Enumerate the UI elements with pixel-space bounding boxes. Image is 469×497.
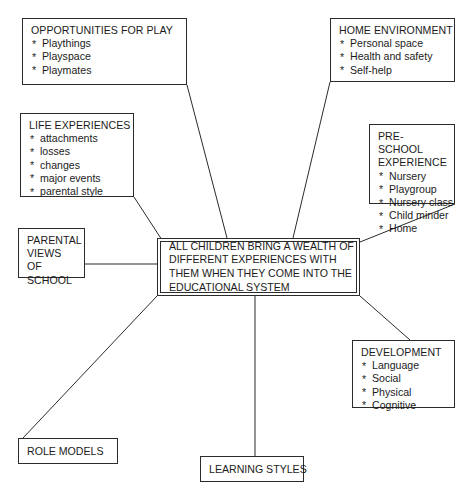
node-parental-views-of-school[interactable]: PARENTAL VIEWS OF SCHOOL: [18, 228, 85, 278]
node-opportunities-for-play[interactable]: OPPORTUNITIES FOR PLAY Playthings Playsp…: [22, 18, 187, 85]
list-item: Social: [361, 372, 447, 385]
node-title: OPPORTUNITIES FOR PLAY: [31, 24, 179, 37]
node-title: ROLE MODELS: [27, 445, 110, 458]
node-title: LEARNING STYLES: [209, 463, 296, 476]
connector-home-environment: [293, 82, 330, 238]
node-home-environment[interactable]: HOME ENVIRONMENT Personal space Health a…: [330, 18, 455, 82]
node-item-list: Language Social Physical Cognitive: [361, 359, 447, 412]
node-role-models[interactable]: ROLE MODELS: [18, 438, 118, 464]
connector-life-experiences: [134, 197, 162, 240]
node-item-list: attachments losses changes major events …: [29, 132, 126, 198]
node-development[interactable]: DEVELOPMENT Language Social Physical Cog…: [352, 340, 455, 408]
central-line: DIFFERENT EXPERIENCES WITH: [169, 253, 348, 267]
node-item-list: Personal space Health and safety Self-he…: [339, 37, 447, 77]
mind-map-diagram: OPPORTUNITIES FOR PLAY Playthings Playsp…: [0, 0, 469, 497]
central-line: ALL CHILDREN BRING A WEALTH OF: [169, 240, 348, 254]
list-item: changes: [29, 159, 126, 172]
list-item: Physical: [361, 386, 447, 399]
list-item: major events: [29, 172, 126, 185]
node-title: PRE-SCHOOL EXPERIENCE: [378, 130, 447, 170]
central-line: EDUCATIONAL SYSTEM: [169, 281, 348, 295]
list-item: attachments: [29, 132, 126, 145]
node-title: PARENTAL VIEWS OF SCHOOL: [27, 234, 77, 287]
list-item: Playspace: [31, 50, 179, 63]
list-item: Playmates: [31, 64, 179, 77]
connector-role-models: [23, 296, 157, 438]
node-title: DEVELOPMENT: [361, 346, 447, 359]
connector-development: [360, 296, 410, 340]
list-item: Home: [378, 222, 447, 235]
list-item: Self-help: [339, 64, 447, 77]
list-item: Playgroup: [378, 183, 447, 196]
list-item: parental style: [29, 185, 126, 198]
node-title: HOME ENVIRONMENT: [339, 24, 447, 37]
list-item: Health and safety: [339, 50, 447, 63]
list-item: Cognitive: [361, 399, 447, 412]
node-item-list: Playthings Playspace Playmates: [31, 37, 179, 77]
node-pre-school-experience[interactable]: PRE-SCHOOL EXPERIENCE Nursery Playgroup …: [369, 124, 455, 204]
central-line: THEM WHEN THEY COME INTO THE: [169, 267, 348, 281]
list-item: Child minder: [378, 209, 447, 222]
node-title: LIFE EXPERIENCES: [29, 119, 126, 132]
node-item-list: Nursery Playgroup Nursery class Child mi…: [378, 170, 447, 236]
node-learning-styles[interactable]: LEARNING STYLES: [200, 456, 304, 482]
node-central-statement[interactable]: ALL CHILDREN BRING A WEALTH OF DIFFERENT…: [157, 238, 360, 296]
list-item: Nursery class: [378, 196, 447, 209]
list-item: Personal space: [339, 37, 447, 50]
list-item: Language: [361, 359, 447, 372]
node-life-experiences[interactable]: LIFE EXPERIENCES attachments losses chan…: [20, 113, 134, 197]
list-item: Playthings: [31, 37, 179, 50]
central-inner-border: ALL CHILDREN BRING A WEALTH OF DIFFERENT…: [160, 241, 357, 293]
list-item: Nursery: [378, 170, 447, 183]
list-item: losses: [29, 145, 126, 158]
connector-opportunities-for-play: [187, 85, 227, 238]
